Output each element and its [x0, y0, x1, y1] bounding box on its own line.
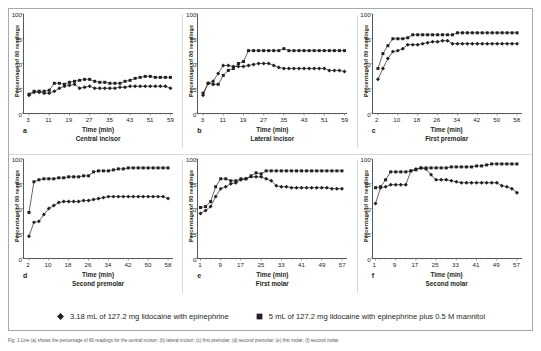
x-tick-label: 18	[65, 261, 72, 268]
panel-subtitle-f: Second molar	[372, 280, 522, 287]
y-tick-label: 0	[19, 256, 22, 263]
x-tick-label: 27	[86, 116, 93, 123]
diamond-marker-icon	[56, 312, 65, 321]
x-axis-title: Time (min)	[197, 271, 347, 278]
y-tick-labels: 0255075100	[10, 14, 22, 114]
panel-subtitle-d: Second premolar	[23, 280, 173, 287]
plot-svg-c	[373, 14, 522, 113]
plot-svg-f	[373, 159, 522, 258]
plot-svg-a	[24, 14, 173, 113]
x-axis-title: Time (min)	[372, 126, 522, 133]
x-tick-label: 9	[393, 261, 396, 268]
x-tick-label: 19	[240, 116, 247, 123]
chart-panel-c: Percentage of 80 readings 0255075100 210…	[358, 9, 532, 154]
y-tick-label: 50	[189, 206, 196, 213]
x-tick-label: 9	[218, 261, 221, 268]
x-tick-label: 49	[493, 261, 500, 268]
x-tick-labels: 311192735435159	[23, 114, 173, 126]
x-tick-label: 18	[413, 116, 420, 123]
legend-label: 3.18 mL of 127.2 mg lidocaine with epine…	[70, 312, 229, 321]
x-tick-labels: 19172533414957	[372, 259, 522, 271]
x-tick-label: 1	[372, 261, 375, 268]
y-tick-labels: 0255075100	[359, 14, 371, 114]
y-tick-label: 50	[364, 61, 371, 68]
x-tick-label: 58	[165, 261, 172, 268]
x-tick-label: 42	[473, 116, 480, 123]
x-tick-label: 41	[298, 261, 305, 268]
x-tick-label: 10	[393, 116, 400, 123]
figure-caption: Fig. 1 Line (a) shows the percentage of …	[8, 338, 533, 350]
figure-root: Percentage of 80 readings 0255075100 311…	[0, 0, 541, 351]
x-tick-label: 43	[301, 116, 308, 123]
x-tick-label: 41	[472, 261, 479, 268]
y-tick-label: 0	[367, 111, 370, 118]
plot-area	[23, 14, 173, 114]
panel-subtitle-c: First premolar	[372, 135, 522, 142]
y-tick-label: 75	[15, 181, 22, 188]
y-tick-labels: 0255075100	[10, 159, 22, 259]
y-tick-label: 50	[15, 206, 22, 213]
x-tick-label: 1	[198, 261, 201, 268]
x-tick-label: 25	[257, 261, 264, 268]
y-tick-label: 25	[364, 231, 371, 238]
y-tick-labels: 0255075100	[359, 159, 371, 259]
plot-area	[197, 14, 347, 114]
x-tick-label: 2	[26, 261, 29, 268]
plot-svg-b	[198, 14, 347, 113]
y-tick-label: 25	[15, 231, 22, 238]
x-tick-label: 10	[45, 261, 52, 268]
y-tick-label: 100	[12, 156, 22, 163]
x-tick-label: 19	[65, 116, 72, 123]
x-tick-label: 43	[126, 116, 133, 123]
y-tick-label: 25	[189, 231, 196, 238]
y-tick-label: 50	[364, 206, 371, 213]
x-tick-label: 33	[278, 261, 285, 268]
plot-area	[197, 159, 347, 259]
legend-item-lidocaine-epinephrine-mannitol: 5 mL of 127.2 mg lidocaine with epinephr…	[255, 312, 485, 321]
plot-area	[23, 159, 173, 259]
panel-subtitle-e: First molar	[197, 280, 347, 287]
panel-subtitle-b: Lateral incisor	[197, 135, 347, 142]
x-tick-label: 51	[147, 116, 154, 123]
panel-subtitle-a: Central incisor	[23, 135, 173, 142]
legend-label: 5 mL of 127.2 mg lidocaine with epinephr…	[269, 312, 485, 321]
x-tick-label: 17	[237, 261, 244, 268]
x-tick-labels: 210182634425058	[23, 259, 173, 271]
y-tick-label: 75	[189, 36, 196, 43]
x-tick-label: 26	[85, 261, 92, 268]
x-axis-title: Time (min)	[23, 126, 173, 133]
chart-panel-f: Percentage of 80 readings 0255075100 191…	[358, 154, 532, 299]
x-tick-label: 57	[513, 261, 520, 268]
y-tick-label: 100	[186, 156, 196, 163]
x-tick-label: 50	[493, 116, 500, 123]
chart-panel-a: Percentage of 80 readings 0255075100 311…	[9, 9, 183, 154]
x-tick-label: 17	[411, 261, 418, 268]
x-tick-label: 42	[125, 261, 132, 268]
x-tick-label: 11	[220, 116, 226, 123]
legend-item-lidocaine-epinephrine: 3.18 mL of 127.2 mg lidocaine with epine…	[56, 312, 229, 321]
y-tick-label: 0	[367, 256, 370, 263]
x-tick-label: 26	[433, 116, 440, 123]
plot-svg-d	[24, 159, 173, 258]
x-tick-label: 50	[145, 261, 152, 268]
y-tick-label: 75	[364, 36, 371, 43]
y-tick-label: 100	[360, 156, 370, 163]
x-tick-label: 35	[106, 116, 113, 123]
y-tick-label: 25	[15, 86, 22, 93]
x-axis-title: Time (min)	[23, 271, 173, 278]
x-tick-label: 59	[167, 116, 174, 123]
plot-svg-e	[198, 159, 347, 258]
x-tick-label: 33	[452, 261, 459, 268]
x-tick-label: 3	[26, 116, 29, 123]
y-tick-label: 0	[19, 111, 22, 118]
x-tick-label: 34	[105, 261, 112, 268]
square-marker-icon	[255, 312, 264, 321]
y-tick-label: 0	[193, 256, 196, 263]
y-tick-label: 75	[364, 181, 371, 188]
plot-area	[372, 14, 522, 114]
plot-area	[372, 159, 522, 259]
y-tick-label: 75	[189, 181, 196, 188]
x-tick-label: 35	[280, 116, 287, 123]
y-tick-label: 100	[12, 11, 22, 18]
x-tick-label: 3	[201, 116, 204, 123]
